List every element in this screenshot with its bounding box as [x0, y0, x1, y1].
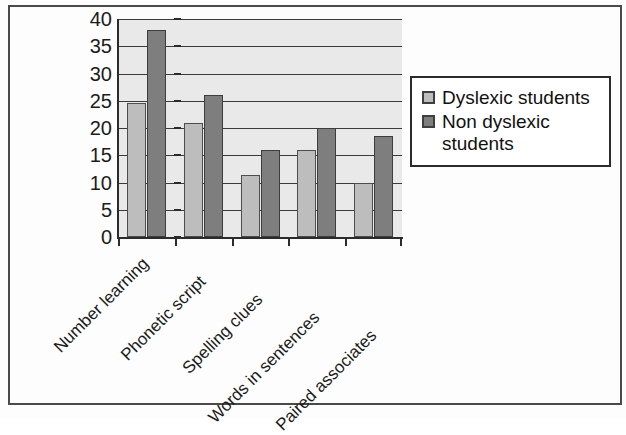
- bar: [297, 150, 316, 237]
- x-axis-category-labels: Number learningPhonetic scriptSpelling c…: [0, 237, 420, 407]
- bar: [147, 30, 166, 237]
- y-axis-tick-label: 30: [68, 64, 112, 84]
- y-axis-tick-mark: [174, 154, 181, 156]
- legend-entry-label: Non dyslexic students: [442, 111, 601, 154]
- y-axis-line: [117, 19, 119, 239]
- y-axis-tick-mark: [174, 100, 181, 102]
- y-axis-tick-labels: 0510152025303540: [62, 19, 112, 237]
- y-axis-tick-mark: [174, 18, 181, 20]
- bar: [184, 123, 203, 237]
- y-axis-tick-label: 35: [68, 36, 112, 56]
- legend-entry: Dyslexic students: [422, 87, 601, 108]
- legend-swatch-icon: [422, 91, 435, 104]
- figure-border-right: [620, 5, 622, 405]
- legend-entry-label: Dyslexic students: [442, 87, 590, 108]
- legend-entry: Non dyslexic students: [422, 111, 601, 154]
- y-axis-tick-mark: [174, 127, 181, 129]
- plot-area: [118, 19, 402, 237]
- bar: [354, 183, 373, 238]
- y-axis-tick-mark: [174, 73, 181, 75]
- figure-border-top: [8, 5, 622, 7]
- y-axis-tick-mark: [174, 182, 181, 184]
- bar: [127, 103, 146, 237]
- legend-box: Dyslexic students Non dyslexic students: [410, 76, 611, 167]
- y-axis-tick-label: 5: [68, 200, 112, 220]
- y-axis-tick-label: 10: [68, 173, 112, 193]
- bar: [261, 150, 280, 237]
- bar: [317, 128, 336, 237]
- bar-series-container: [118, 19, 402, 237]
- y-axis-tick-mark: [174, 209, 181, 211]
- legend-swatch-icon: [422, 115, 435, 128]
- y-axis-tick-label: 20: [68, 118, 112, 138]
- bar: [204, 95, 223, 237]
- y-axis-tick-label: 25: [68, 91, 112, 111]
- bar: [374, 136, 393, 237]
- y-axis-tick-mark: [174, 45, 181, 47]
- bar: [241, 175, 260, 237]
- y-axis-tick-label: 40: [68, 9, 112, 29]
- y-axis-tick-label: 15: [68, 145, 112, 165]
